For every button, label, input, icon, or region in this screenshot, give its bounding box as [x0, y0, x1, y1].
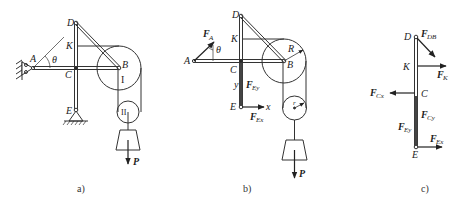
- label-c-C: C: [421, 88, 428, 99]
- statics-diagram: A θ C D K E B I II P a): [0, 0, 453, 205]
- svg-text:Ey: Ey: [403, 126, 412, 134]
- label-b-theta: θ: [216, 44, 221, 55]
- label-b-E: E: [229, 101, 236, 112]
- label-b-C: C: [230, 64, 237, 75]
- label-c-D: D: [403, 31, 412, 42]
- svg-text:Cx: Cx: [376, 92, 385, 100]
- svg-text:Ey: Ey: [251, 84, 260, 92]
- label-b-K: K: [230, 33, 239, 44]
- svg-text:Ex: Ex: [435, 138, 444, 146]
- label-c-K: K: [402, 61, 411, 72]
- label-a-C: C: [65, 69, 72, 80]
- label-b-A: A: [183, 55, 191, 66]
- label-a-P: P: [133, 156, 140, 167]
- label-c-FDB: F DB: [420, 28, 437, 41]
- label-b-D: D: [231, 9, 240, 20]
- label-b-R: R: [287, 43, 294, 54]
- label-a-theta: θ: [52, 54, 57, 65]
- svg-text:DB: DB: [426, 33, 437, 41]
- label-a-pulley-II: II: [121, 108, 127, 117]
- label-a-pulley-I: I: [121, 74, 124, 85]
- label-c-FEx: F Ex: [429, 133, 444, 146]
- caption-b: b): [243, 183, 251, 195]
- caption-c: c): [421, 183, 429, 195]
- label-c-FEy: F Ey: [397, 121, 412, 134]
- label-b-x: x: [265, 101, 271, 112]
- label-b-r: r: [293, 99, 296, 107]
- label-b-B: B: [287, 59, 293, 70]
- label-b-y: y: [233, 79, 239, 90]
- panel-b-labels: A F A θ D K C y F Ey E x F Ex B R r P b): [183, 9, 306, 195]
- svg-text:Cy: Cy: [427, 114, 436, 122]
- label-c-FCx: F Cx: [369, 87, 385, 100]
- panel-c-labels: D F DB K F K F Cx C F Cy F Ey F Ex E c): [369, 28, 448, 195]
- label-a-A: A: [29, 53, 37, 64]
- panel-a-labels: A θ C D K E B I II P a): [29, 17, 140, 195]
- svg-text:K: K: [442, 74, 448, 82]
- label-b-FEy: F Ey: [245, 79, 260, 92]
- panel-a: [16, 21, 141, 164]
- svg-text:Ex: Ex: [255, 116, 264, 124]
- label-a-E: E: [65, 105, 72, 116]
- label-c-E: E: [411, 149, 418, 160]
- label-a-B: B: [122, 59, 128, 70]
- label-a-K: K: [65, 40, 74, 51]
- label-b-FA: F A: [202, 28, 214, 42]
- label-b-P: P: [299, 168, 306, 179]
- label-c-FK: F K: [436, 69, 448, 82]
- caption-a: a): [77, 183, 85, 195]
- label-c-FCy: F Cy: [420, 109, 436, 122]
- label-a-D: D: [66, 17, 75, 28]
- label-b-FEx: F Ex: [249, 111, 264, 124]
- svg-text:A: A: [208, 34, 214, 42]
